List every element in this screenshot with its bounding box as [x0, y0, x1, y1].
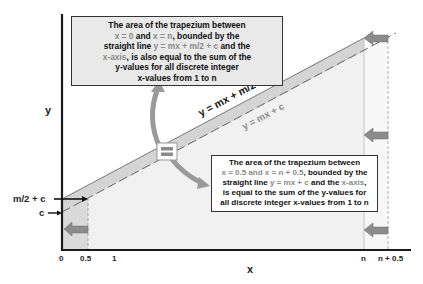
bottom-box-andthe: and the	[309, 178, 342, 187]
top-box-bounded: , bounded by the	[172, 31, 239, 41]
top-box-xaxis: x-axis	[103, 52, 127, 62]
curved-arrow-up	[152, 88, 160, 148]
bottom-box-comma: ,	[364, 178, 366, 187]
right-strip	[364, 38, 388, 250]
bottom-box-xaxis: x-axis	[342, 178, 365, 187]
bottom-box-line3: straight line y = mx + c and the x-axis,	[214, 178, 375, 188]
top-box-line1: The area of the trapezium between	[75, 20, 279, 31]
bottom-box-and: and	[246, 168, 265, 177]
bottom-box-line4: is equal to the sum of the y-values for	[214, 188, 375, 198]
bottom-box-line5: all discrete integer x-values from 1 to …	[214, 198, 375, 208]
y-tick-m2c: m/2 + c	[13, 193, 45, 204]
top-explanation-box: The area of the trapezium between x = 0 …	[71, 16, 283, 86]
top-box-line6: x-values from 1 to n	[75, 73, 279, 84]
top-box-and: and	[134, 31, 154, 41]
equals-icon	[157, 143, 177, 160]
y-tick-c: c	[39, 207, 44, 218]
bottom-box-eq: y = mx + c	[270, 178, 309, 187]
bottom-box-bounded: , bounded by the	[304, 168, 368, 177]
x-axis-label: x	[247, 263, 253, 275]
top-box-line4: x-axis, is also equal to the sum of the	[75, 52, 279, 63]
bottom-box-line2: x = 0.5 and x = n + 0.5, bounded by the	[214, 168, 375, 178]
top-box-andthe: and the	[218, 41, 250, 51]
top-box-line3: straight line y = mx + m/2 + c and the	[75, 41, 279, 52]
bottom-explanation-box: The area of the trapezium between x = 0.…	[211, 155, 378, 212]
top-box-xn: x = n	[153, 31, 172, 41]
x-tick-n-plus-half: n + 0.5	[378, 254, 403, 263]
bottom-box-x05: x = 0.5	[221, 168, 246, 177]
top-box-straight: straight line	[104, 41, 154, 51]
top-box-line2: x = 0 and x = n, bounded by the	[75, 31, 279, 42]
x-tick-n: n	[361, 254, 366, 263]
top-box-x0: x = 0	[115, 31, 134, 41]
top-box-line5: y-values for all discrete integer	[75, 62, 279, 73]
top-box-eq: y = mx + m/2 + c	[154, 41, 219, 51]
bottom-box-xn05: x = n + 0.5	[265, 168, 304, 177]
bottom-box-straight: straight line	[222, 178, 270, 187]
bottom-box-line1: The area of the trapezium between	[214, 158, 375, 168]
top-box-also: , is also equal to the sum of the	[127, 52, 252, 62]
x-tick-0: 0	[59, 254, 63, 263]
x-tick-1: 1	[112, 254, 116, 263]
x-tick-0-5: 0.5	[80, 254, 91, 263]
y-axis-label: y	[45, 104, 51, 116]
